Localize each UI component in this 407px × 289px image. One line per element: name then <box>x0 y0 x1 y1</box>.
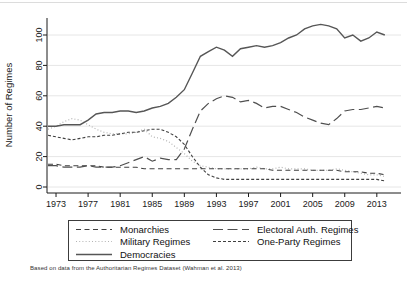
x-tick-label-2001: 2001 <box>271 199 291 209</box>
x-tick-label-2013: 2013 <box>367 199 387 209</box>
legend-label-monarchies: Monarchies <box>120 225 169 235</box>
x-tick-label-1997: 1997 <box>238 199 258 209</box>
y-tick-label-0: 0 <box>34 184 44 189</box>
x-tick-label-1977: 1977 <box>78 199 98 209</box>
y-tick-label-80: 80 <box>34 60 44 70</box>
legend-label-one-party-regimes: One-Party Regimes <box>257 237 340 247</box>
series-line-monarchies <box>48 164 385 175</box>
one-party-line-sample <box>212 237 250 246</box>
chart-legend: Monarchies Electoral Auth. Regimes Milit… <box>68 220 352 261</box>
line-chart-plot-area: 0204060801001973197719811985198919931997… <box>0 0 407 216</box>
legend-item-electoral-auth-regimes: Electoral Auth. Regimes <box>212 225 358 235</box>
x-tick-label-2005: 2005 <box>303 199 323 209</box>
y-tick-label-100: 100 <box>34 27 44 42</box>
y-tick-label-20: 20 <box>34 152 44 162</box>
regime-types-figure: 0204060801001973197719811985198919931997… <box>0 0 407 289</box>
y-tick-label-60: 60 <box>34 91 44 101</box>
monarchies-line-sample <box>75 225 113 234</box>
military-line-sample <box>75 237 113 246</box>
x-tick-label-1985: 1985 <box>142 199 162 209</box>
series-line-democracies <box>48 24 385 126</box>
y-tick-label-40: 40 <box>34 121 44 131</box>
legend-label-military-regimes: Military Regimes <box>120 237 190 247</box>
x-tick-label-2009: 2009 <box>335 199 355 209</box>
x-tick-label-1981: 1981 <box>110 199 130 209</box>
x-tick-label-1993: 1993 <box>206 199 226 209</box>
x-tick-label-1989: 1989 <box>174 199 194 209</box>
source-caption: Based on data from the Authoritarian Reg… <box>30 265 242 271</box>
y-axis-title: Number of Regimes <box>3 63 14 148</box>
legend-item-one-party-regimes: One-Party Regimes <box>212 237 358 247</box>
electoral-auth-line-sample <box>212 225 250 234</box>
x-tick-label-1973: 1973 <box>46 199 66 209</box>
legend-item-democracies: Democracies <box>75 250 212 260</box>
legend-label-electoral-auth-regimes: Electoral Auth. Regimes <box>257 225 358 235</box>
legend-item-military-regimes: Military Regimes <box>75 237 212 247</box>
legend-label-democracies: Democracies <box>120 250 175 260</box>
legend-item-monarchies: Monarchies <box>75 225 212 235</box>
democracies-line-sample <box>75 250 113 259</box>
series-line-one-party-regimes <box>48 129 385 181</box>
